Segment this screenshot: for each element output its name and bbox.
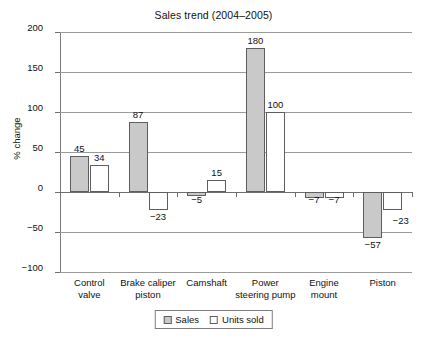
y-axis-tick [55,112,60,113]
bar-value-label: 34 [79,153,119,163]
bar-sales [129,122,148,192]
y-axis-tick-label: 200 [0,27,43,28]
y-axis-tick-label: 150 [0,67,43,68]
bar-value-label: −5 [177,195,217,205]
bar-value-label: −7 [314,195,354,205]
x-axis-tick [236,192,237,197]
bar-units-sold [90,165,109,192]
x-axis-category-line: mount [281,289,367,301]
gridline [60,272,412,273]
y-axis-tick-label: −100 [0,267,43,268]
bar-value-label: 180 [235,36,275,46]
y-axis-tick [55,272,60,273]
plot-area: 200150100500−50−100 4587−5180−7−5734−231… [60,32,412,272]
bar-chart: Sales trend (2004–2005) % change 2001501… [0,0,427,347]
gridline [60,72,412,73]
chart-title: Sales trend (2004–2005) [0,9,427,21]
gridline [60,112,412,113]
y-axis-tick-label: 50 [0,147,43,148]
bar-value-label: −57 [353,240,393,250]
legend-swatch-icon [163,316,171,324]
y-axis-tick-label: 100 [0,107,43,108]
legend-item-label: Units sold [222,314,264,325]
y-axis-tick [55,72,60,73]
x-axis-tick [119,192,120,197]
legend-item: Sales [163,314,199,325]
gridline [60,232,412,233]
legend-swatch-icon [210,316,218,324]
bar-value-label: 100 [255,100,295,110]
y-axis-tick [55,232,60,233]
bar-value-label: −23 [138,212,178,222]
x-axis-tick [412,192,413,197]
x-axis-category-line: Piston [340,277,426,289]
y-axis-tick [55,32,60,33]
bar-units-sold [207,180,226,192]
legend-item: Units sold [210,314,264,325]
gridline [60,32,412,33]
bar-value-label: 87 [118,110,158,120]
bar-sales [246,48,265,192]
bar-units-sold [266,112,285,192]
x-axis-category-label: Piston [340,277,426,289]
bar-units-sold [149,192,168,210]
y-axis-tick-label: 0 [0,187,43,188]
y-axis-tick-label: −50 [0,227,43,228]
bar-value-label: −23 [381,216,421,226]
bar-units-sold [383,192,402,210]
x-axis-category-line: piston [105,289,191,301]
bar-value-label: 15 [197,168,237,178]
x-axis-tick [60,192,61,197]
bar-sales [363,192,382,238]
chart-legend: SalesUnits sold [154,310,272,329]
legend-item-label: Sales [175,314,199,325]
